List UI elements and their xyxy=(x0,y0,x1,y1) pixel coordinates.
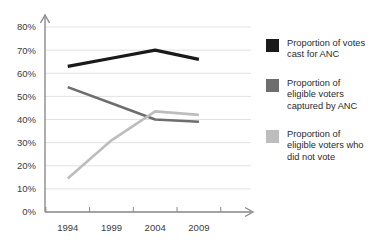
legend-swatch-icon xyxy=(266,79,279,92)
legend-label: Proportion of eligible voters who did no… xyxy=(287,129,363,163)
legend-swatch-icon xyxy=(266,130,279,143)
y-axis-tick-labels: 80%70%60%50%40%30%20%10%0% xyxy=(17,21,37,217)
line-chart-figure: 80%70%60%50%40%30%20%10%0% 1994199920042… xyxy=(0,0,391,242)
y-tick-label: 40% xyxy=(17,114,37,125)
y-tick-label: 10% xyxy=(17,183,37,194)
y-tick-label: 0% xyxy=(22,206,36,217)
legend-swatch-icon xyxy=(266,39,279,52)
legend-entry: Proportion of eligible voters who did no… xyxy=(266,129,388,163)
y-tick-label: 80% xyxy=(17,21,37,32)
x-axis-tick-marks xyxy=(46,207,221,212)
x-tick-label: 1999 xyxy=(101,222,122,233)
gridlines xyxy=(45,27,251,212)
legend-entry: Proportion of eligible voters captured b… xyxy=(266,78,388,112)
legend-label: Proportion of eligible voters captured b… xyxy=(287,78,357,112)
x-axis-tick-labels: 1994199920042009 xyxy=(57,222,209,233)
y-tick-label: 20% xyxy=(17,160,37,171)
x-tick-label: 1994 xyxy=(57,222,78,233)
x-tick-label: 2009 xyxy=(188,222,209,233)
chart-legend: Proportion of votes cast for ANCProporti… xyxy=(266,38,388,180)
legend-label: Proportion of votes cast for ANC xyxy=(287,38,365,61)
data-series-lines xyxy=(68,50,199,178)
x-tick-label: 2004 xyxy=(145,222,166,233)
y-tick-label: 50% xyxy=(17,91,37,102)
y-tick-label: 60% xyxy=(17,68,37,79)
y-tick-label: 70% xyxy=(17,45,37,56)
legend-entry: Proportion of votes cast for ANC xyxy=(266,38,388,61)
series-line-2 xyxy=(68,87,199,122)
series-line-1 xyxy=(68,50,199,66)
y-tick-label: 30% xyxy=(17,137,37,148)
